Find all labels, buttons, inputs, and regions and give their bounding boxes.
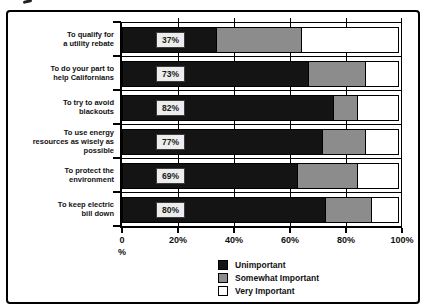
category-label: To keep electricbill down xyxy=(12,192,114,226)
legend-swatch-unimportant xyxy=(218,260,228,270)
bar-row: 80% xyxy=(122,192,402,226)
stacked-bar: 37% xyxy=(122,27,402,53)
bar-value-label: 80% xyxy=(156,202,185,218)
bar-segment-somewhat-important xyxy=(216,27,303,53)
bar-value-label: 37% xyxy=(156,32,185,48)
category-axis-tick xyxy=(113,157,121,159)
legend-item-label: Unimportant xyxy=(235,260,286,270)
stacked-bar: 73% xyxy=(122,61,402,87)
bar-segment-unimportant xyxy=(122,129,324,155)
x-axis-tick-label: 60% xyxy=(270,235,310,245)
category-axis-tick xyxy=(113,21,121,23)
bar-value-label: 69% xyxy=(156,168,185,184)
bar-segment-somewhat-important xyxy=(297,163,359,189)
plot-area: 37%73%82%77%69%80% xyxy=(120,22,402,228)
category-axis-tick xyxy=(113,191,121,193)
legend-item-very-important: Very Important xyxy=(218,286,319,296)
bar-segment-somewhat-important xyxy=(325,197,373,223)
category-label-line: To try to avoid xyxy=(63,98,114,107)
category-label-line: To qualify for xyxy=(67,30,114,39)
category-label-line: a utility rebate xyxy=(63,39,114,48)
legend: UnimportantSomewhat ImportantVery Import… xyxy=(218,260,319,299)
stacked-bar: 80% xyxy=(122,197,402,223)
bar-segment-somewhat-important xyxy=(322,129,367,155)
legend-swatch-very-important xyxy=(218,286,228,296)
bar-segment-somewhat-important xyxy=(333,95,358,121)
x-axis-tick xyxy=(401,228,403,233)
bar-segment-very-important xyxy=(371,197,399,223)
bar-value-label: 73% xyxy=(156,66,185,82)
category-label-line: To keep electric xyxy=(58,200,114,209)
x-axis-tick-label: 100% xyxy=(382,235,422,245)
bar-segment-very-important xyxy=(357,163,399,189)
stacked-bar: 69% xyxy=(122,163,402,189)
bar-segment-unimportant xyxy=(122,95,335,121)
chart-figure: To qualify fora utility rebateTo do your… xyxy=(6,10,420,304)
legend-item-somewhat-important: Somewhat Important xyxy=(218,273,319,283)
legend-swatch-somewhat-important xyxy=(218,273,228,283)
x-axis-tick xyxy=(289,228,291,233)
x-axis-tick-label: 40% xyxy=(214,235,254,245)
category-label: To do your part tohelp Californians xyxy=(12,56,114,90)
bar-segment-somewhat-important xyxy=(308,61,367,87)
bar-segment-unimportant xyxy=(122,61,310,87)
bar-segment-very-important xyxy=(365,61,399,87)
category-label-line: resources as wisely as xyxy=(33,137,114,146)
bar-segment-very-important xyxy=(365,129,399,155)
category-label: To try to avoidblackouts xyxy=(12,90,114,124)
category-label-line: To do your part to xyxy=(50,64,114,73)
bar-row: 82% xyxy=(122,90,402,124)
bar-row: 69% xyxy=(122,158,402,192)
category-label-line: help Californians xyxy=(53,73,114,82)
x-axis-tick xyxy=(121,228,123,233)
bar-segment-very-important xyxy=(301,27,399,53)
category-label: To qualify fora utility rebate xyxy=(12,22,114,56)
category-label-line: possible xyxy=(84,146,114,155)
category-axis-tick xyxy=(113,123,121,125)
x-axis-tick-label: 20% xyxy=(158,235,198,245)
bar-segment-unimportant xyxy=(122,197,326,223)
x-axis-unit-label: % xyxy=(112,247,132,257)
bar-row: 37% xyxy=(122,22,402,56)
bar-segment-unimportant xyxy=(122,163,298,189)
stacked-bar: 82% xyxy=(122,95,402,121)
category-axis-tick xyxy=(113,89,121,91)
legend-item-unimportant: Unimportant xyxy=(218,260,319,270)
category-label-line: To protect the xyxy=(65,166,114,175)
bar-value-label: 77% xyxy=(156,134,185,150)
legend-item-label: Very Important xyxy=(235,286,295,296)
stacked-bar: 77% xyxy=(122,129,402,155)
x-axis-tick xyxy=(177,228,179,233)
category-label-line: environment xyxy=(69,175,114,184)
bar-value-label: 82% xyxy=(156,100,185,116)
x-axis-tick-label: 0 xyxy=(102,235,142,245)
category-axis-tick xyxy=(113,55,121,57)
category-label-line: To use energy xyxy=(64,128,114,137)
bar-row: 77% xyxy=(122,124,402,158)
category-axis-tick xyxy=(113,225,121,227)
x-axis-tick-label: 80% xyxy=(326,235,366,245)
category-label-line: blackouts xyxy=(79,107,114,116)
bar-segment-very-important xyxy=(357,95,399,121)
screenshot-canvas: To qualify fora utility rebateTo do your… xyxy=(0,0,427,307)
legend-item-label: Somewhat Important xyxy=(235,273,319,283)
cropped-text-fragment xyxy=(23,0,32,4)
category-label: To protect theenvironment xyxy=(12,158,114,192)
bar-row: 73% xyxy=(122,56,402,90)
category-label-line: bill down xyxy=(82,209,115,218)
x-axis-tick xyxy=(233,228,235,233)
category-label: To use energyresources as wisely aspossi… xyxy=(12,124,114,158)
x-axis-tick xyxy=(345,228,347,233)
